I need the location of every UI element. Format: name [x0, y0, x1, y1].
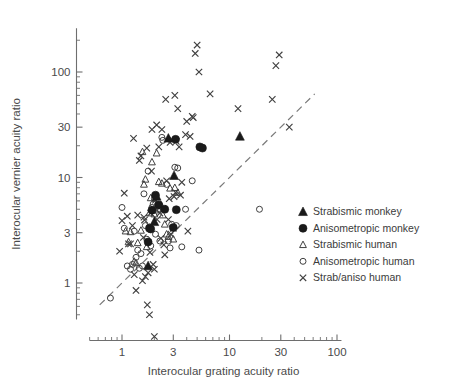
data-point: [121, 190, 127, 196]
data-point: [192, 50, 198, 56]
data-point: [175, 105, 181, 111]
data-point: [146, 312, 152, 318]
data-point: [161, 205, 169, 213]
x-axis-title: Interocular grating acuity ratio: [148, 365, 300, 377]
x-tick-labels: 131030100: [119, 346, 347, 358]
data-point: [145, 168, 151, 174]
data-point: [124, 213, 130, 219]
data-point: [183, 206, 189, 212]
legend-label: Strabismic human: [313, 238, 397, 250]
data-point: [141, 191, 147, 197]
data-point: [153, 149, 160, 155]
legend-label: Strab/aniso human: [313, 271, 401, 283]
data-point: [119, 204, 125, 210]
data-point: [235, 105, 241, 111]
data-point: [130, 135, 136, 141]
data-point: [144, 145, 150, 151]
scatter-plot-figure: 131030100131030100Interocular grating ac…: [0, 0, 449, 385]
data-point: [138, 251, 144, 257]
y-tick-label: 100: [51, 66, 70, 78]
data-point: [142, 273, 148, 279]
data-point: [198, 144, 206, 152]
data-point: [144, 302, 150, 308]
data-point: [273, 62, 279, 68]
series-anisometropic-human: [107, 134, 262, 301]
data-point: [194, 42, 200, 48]
data-point: [300, 241, 307, 247]
x-tick-label: 10: [223, 346, 236, 358]
data-point: [161, 221, 168, 227]
data-point: [116, 248, 122, 254]
y-axis-title: Interocular vernier acuity ratio: [10, 98, 22, 249]
legend-item[interactable]: Strabismic human: [300, 238, 398, 250]
data-point: [179, 179, 185, 185]
data-point: [172, 92, 178, 98]
legend-item[interactable]: Strabismic monkey: [299, 205, 403, 217]
data-point: [300, 258, 306, 264]
legend-label: Anisometropic human: [313, 255, 415, 267]
legend-label: Anisometropic monkey: [313, 222, 420, 234]
data-point: [148, 206, 156, 214]
y-tick-labels: 131030100: [51, 66, 70, 289]
data-point: [207, 91, 213, 97]
legend-item[interactable]: Anisometropic human: [300, 255, 415, 267]
y-tick-label: 30: [58, 121, 71, 133]
data-point: [196, 247, 202, 253]
data-point: [300, 275, 306, 281]
data-point: [169, 224, 177, 232]
data-point: [159, 126, 165, 132]
y-tick-label: 1: [64, 277, 70, 289]
data-point: [236, 132, 245, 141]
data-point: [142, 176, 149, 182]
data-point: [145, 270, 151, 276]
data-point: [179, 244, 185, 250]
data-point: [107, 295, 113, 301]
data-point: [147, 225, 155, 233]
legend-label: Strabismic monkey: [313, 205, 402, 217]
legend-item[interactable]: Strab/aniso human: [300, 271, 401, 283]
x-tick-label: 30: [274, 346, 287, 358]
data-point: [162, 252, 168, 258]
data-point: [147, 249, 153, 255]
data-point: [133, 287, 139, 293]
y-tick-label: 3: [64, 227, 70, 239]
data-point: [149, 158, 156, 164]
data-point: [189, 178, 195, 184]
legend-item[interactable]: Anisometropic monkey: [299, 222, 420, 234]
data-point: [144, 238, 152, 246]
data-point: [172, 206, 180, 214]
data-point: [269, 96, 275, 102]
data-point: [256, 206, 262, 212]
legend: Strabismic monkeyAnisometropic monkeyStr…: [299, 205, 420, 283]
data-point: [185, 228, 191, 234]
data-point: [196, 69, 202, 75]
data-point: [135, 247, 141, 253]
unity-line: [100, 94, 315, 305]
data-point: [139, 278, 145, 284]
data-point: [276, 52, 282, 58]
data-point: [135, 212, 141, 218]
data-point: [286, 124, 292, 130]
plot-svg: 131030100131030100Interocular grating ac…: [0, 0, 449, 385]
x-tick-label: 1: [119, 346, 125, 358]
data-point: [119, 217, 125, 223]
data-point: [170, 171, 179, 180]
x-tick-label: 3: [170, 346, 176, 358]
data-point: [299, 207, 308, 216]
x-tick-label: 100: [327, 346, 346, 358]
data-point: [299, 224, 307, 232]
data-point: [167, 245, 173, 251]
data-point: [163, 96, 169, 102]
axes: [77, 28, 342, 340]
y-tick-label: 10: [58, 172, 71, 184]
